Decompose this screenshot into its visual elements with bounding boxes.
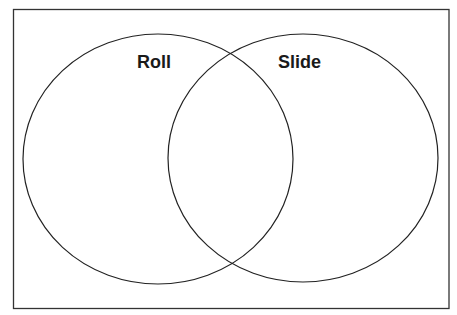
venn-diagram: Roll Slide <box>0 0 457 315</box>
set-label-roll: Roll <box>137 52 171 72</box>
set-label-slide: Slide <box>278 52 321 72</box>
